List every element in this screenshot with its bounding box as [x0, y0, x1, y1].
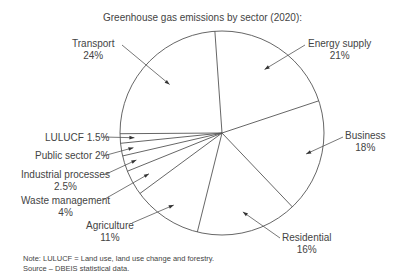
- label-pct: 21%: [308, 50, 371, 62]
- label-energy-supply: Energy supply 21%: [308, 38, 371, 62]
- label-pct: 4%: [21, 207, 110, 219]
- label-name: LULUCF 1.5%: [45, 132, 109, 144]
- label-industrial-processes: Industrial processes 2.5%: [21, 169, 110, 193]
- label-name: Energy supply: [308, 38, 371, 50]
- label-business: Business 18%: [345, 130, 386, 154]
- label-residential: Residential 16%: [282, 232, 331, 256]
- label-pct: 24%: [72, 50, 114, 62]
- label-public-sector: Public sector 2%: [35, 150, 109, 162]
- chart-notes: Note: LULUCF = Land use, land use change…: [23, 254, 214, 274]
- label-agriculture: Agriculture 11%: [86, 220, 134, 244]
- source-line: Source – DBEIS statistical data.: [23, 264, 214, 274]
- label-name: Waste management: [21, 195, 110, 207]
- label-waste-management: Waste management 4%: [21, 195, 110, 219]
- label-pct: 11%: [86, 232, 134, 244]
- note-line: Note: LULUCF = Land use, land use change…: [23, 254, 214, 264]
- label-lulucf: LULUCF 1.5%: [45, 132, 109, 144]
- label-name: Business: [345, 130, 386, 142]
- label-pct: 16%: [282, 244, 331, 256]
- label-pct: 2.5%: [21, 181, 110, 193]
- label-name: Agriculture: [86, 220, 134, 232]
- label-name: Residential: [282, 232, 331, 244]
- label-name: Transport: [72, 38, 114, 50]
- label-name: Public sector 2%: [35, 150, 109, 162]
- label-pct: 18%: [345, 142, 386, 154]
- label-transport: Transport 24%: [72, 38, 114, 62]
- label-name: Industrial processes: [21, 169, 110, 181]
